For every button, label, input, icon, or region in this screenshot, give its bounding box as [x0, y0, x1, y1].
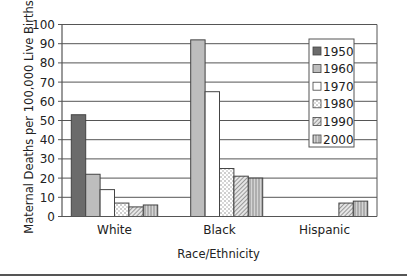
y-tick-label: 90 [40, 37, 55, 51]
bar-black-2000 [248, 178, 262, 216]
y-tick-label: 70 [40, 76, 55, 90]
bar-black-1960 [191, 40, 205, 217]
y-tick-label: 80 [40, 56, 55, 70]
x-axis-label: Race/Ethnicity [0, 247, 407, 261]
legend-swatch-1950 [313, 47, 321, 55]
bar-black-1970 [205, 92, 219, 217]
y-tick-label: 30 [40, 152, 55, 166]
bar-white-1970 [100, 190, 114, 217]
bar-white-1990 [129, 207, 143, 217]
legend: 195019601970198019902000 [309, 39, 354, 147]
x-tick-label: White [97, 223, 132, 237]
y-tick-label: 50 [40, 114, 55, 128]
legend-swatch-1970 [313, 82, 321, 90]
y-tick-label: 10 [40, 191, 55, 205]
y-tick-label: 0 [47, 210, 55, 224]
bar-white-1980 [115, 203, 129, 216]
bar-white-1960 [86, 174, 100, 216]
legend-swatch-2000 [313, 135, 321, 143]
bar-hispanic-1990 [339, 203, 353, 216]
legend-swatch-1990 [313, 117, 321, 125]
legend-label: 1970 [323, 80, 354, 94]
bottom-rule [0, 274, 407, 276]
legend-label: 1990 [323, 115, 354, 129]
bar-hispanic-2000 [353, 201, 367, 216]
x-tick-label: Hispanic [299, 223, 350, 237]
bar-white-1950 [71, 115, 85, 217]
y-tick-label: 40 [40, 133, 55, 147]
y-tick-label: 60 [40, 95, 55, 109]
legend-label: 1950 [323, 45, 354, 59]
legend-label: 1980 [323, 97, 354, 111]
chart-figure: 0102030405060708090100WhiteBlackHispanic… [0, 0, 407, 277]
y-axis-label: Maternal Deaths per 100,000 Live Births [22, 0, 36, 233]
bar-chart: 0102030405060708090100WhiteBlackHispanic… [0, 0, 407, 277]
legend-swatch-1960 [313, 65, 321, 73]
legend-label: 1960 [323, 62, 354, 76]
bar-black-1990 [234, 176, 248, 216]
y-tick-label: 20 [40, 172, 55, 186]
legend-label: 2000 [323, 133, 354, 147]
bar-white-2000 [143, 205, 157, 217]
x-tick-label: Black [203, 223, 236, 237]
legend-swatch-1980 [313, 100, 321, 108]
bar-black-1980 [220, 169, 234, 217]
